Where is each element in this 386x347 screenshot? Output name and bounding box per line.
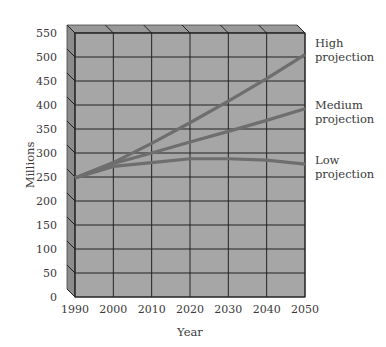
legend-label: Medium (315, 98, 363, 112)
x-tick-label: 2020 (176, 303, 204, 316)
x-tick-label: 2010 (138, 303, 166, 316)
y-tick-label: 100 (36, 243, 57, 256)
y-tick-label: 550 (36, 27, 57, 40)
x-tick-label: 2030 (214, 303, 242, 316)
y-tick-label: 250 (36, 171, 57, 184)
y-tick-label: 200 (36, 195, 57, 208)
legend-label: projection (315, 167, 375, 181)
x-tick-label: 2040 (253, 303, 281, 316)
legend-label: projection (315, 112, 375, 126)
y-tick-label: 350 (36, 123, 57, 136)
legend-label: projection (315, 50, 375, 64)
y-axis-ticks: 050100150200250300350400450500550 (36, 27, 57, 304)
legend-label: High (315, 36, 344, 50)
projection-chart: 050100150200250300350400450500550 199020… (0, 0, 386, 347)
y-tick-label: 150 (36, 219, 57, 232)
y-tick-label: 0 (50, 291, 57, 304)
legend-item: Lowprojection (315, 153, 375, 181)
legend-label: Low (315, 153, 340, 167)
x-tick-label: 2050 (291, 303, 319, 316)
y-tick-label: 50 (43, 267, 57, 280)
side-face (67, 25, 75, 297)
y-tick-label: 500 (36, 51, 57, 64)
legend-item: Highprojection (315, 36, 375, 64)
legend-item: Mediumprojection (315, 98, 375, 126)
x-tick-label: 1990 (61, 303, 89, 316)
y-tick-label: 300 (36, 147, 57, 160)
legend: HighprojectionMediumprojectionLowproject… (315, 36, 375, 181)
y-tick-label: 450 (36, 75, 57, 88)
y-axis-label: Millions (23, 142, 37, 189)
y-tick-label: 400 (36, 99, 57, 112)
x-axis-ticks: 1990200020102020203020402050 (61, 303, 319, 316)
x-tick-label: 2000 (99, 303, 127, 316)
x-axis-label: Year (176, 325, 203, 339)
